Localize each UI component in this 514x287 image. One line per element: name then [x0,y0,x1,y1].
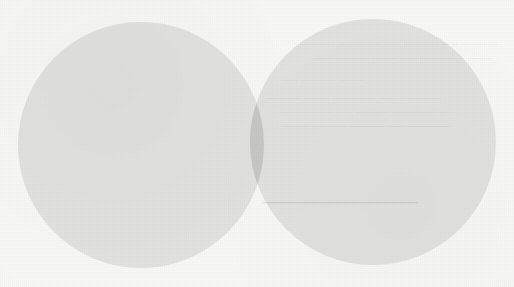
venn-circle-left [18,22,264,268]
venn-diagram [0,0,514,287]
scanned-page: — ——— —— ———— —— ————— ———— ——— ————— ——… [0,0,514,287]
venn-circle-right [250,19,496,265]
